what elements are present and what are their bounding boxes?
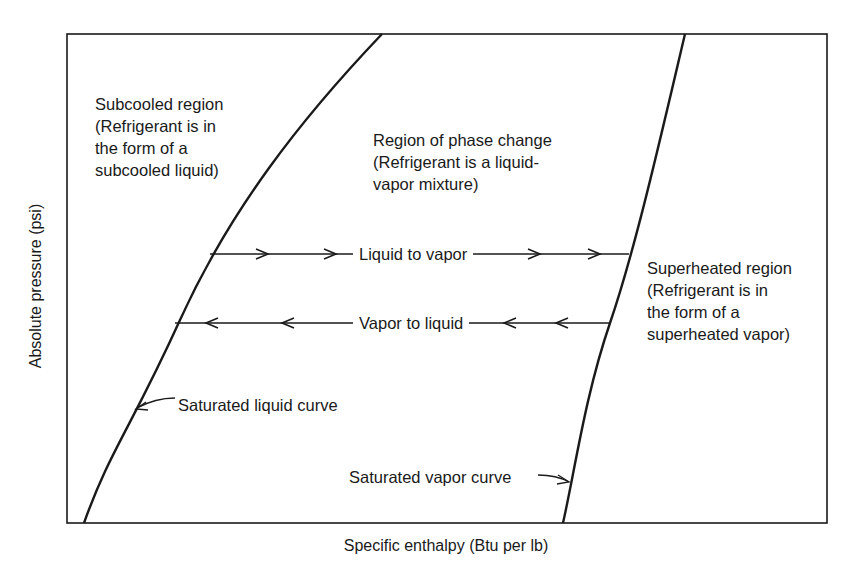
label-line: Subcooled region [95, 93, 223, 115]
subcooled-region-label: Subcooled region (Refrigerant is in the … [95, 93, 223, 181]
label-line: (Refrigerant is a liquid- [373, 151, 552, 173]
superheated-region-label: Superheated region (Refrigerant is in th… [647, 257, 792, 345]
label-line: the form of a [95, 137, 223, 159]
liquid-to-vapor-label: Liquid to vapor [353, 244, 473, 264]
vapor-to-liquid-label: Vapor to liquid [353, 313, 469, 333]
saturated-vapor-curve-label: Saturated vapor curve [349, 466, 511, 488]
label-line: superheated vapor) [647, 323, 792, 345]
y-axis-label: Absolute pressure (psi) [27, 204, 45, 369]
label-line: the form of a [647, 301, 792, 323]
label-line: vapor mixture) [373, 173, 552, 195]
x-axis-label: Specific enthalpy (Btu per lb) [344, 537, 549, 555]
label-line: subcooled liquid) [95, 159, 223, 181]
phase-change-region-label: Region of phase change (Refrigerant is a… [373, 129, 552, 195]
label-line: Superheated region [647, 257, 792, 279]
saturated-liquid-curve-label: Saturated liquid curve [178, 394, 338, 416]
label-line: Region of phase change [373, 129, 552, 151]
label-line: (Refrigerant is in [647, 279, 792, 301]
label-line: (Refrigerant is in [95, 115, 223, 137]
